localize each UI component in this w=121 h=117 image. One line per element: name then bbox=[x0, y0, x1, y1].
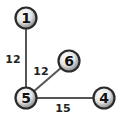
node-1: 1 bbox=[16, 8, 37, 29]
edge-weight-5-4: 15 bbox=[55, 102, 70, 115]
edge-weight-6-5: 12 bbox=[33, 65, 48, 78]
graph-diagram: 12 12 15 1 6 5 4 bbox=[0, 0, 121, 117]
node-6: 6 bbox=[59, 51, 80, 72]
node-label: 5 bbox=[21, 90, 31, 106]
node-5: 5 bbox=[16, 88, 37, 109]
node-4: 4 bbox=[94, 88, 115, 109]
node-label: 6 bbox=[64, 53, 74, 69]
node-label: 4 bbox=[99, 90, 109, 106]
edge-weight-1-5: 12 bbox=[5, 53, 20, 66]
node-label: 1 bbox=[21, 10, 31, 26]
